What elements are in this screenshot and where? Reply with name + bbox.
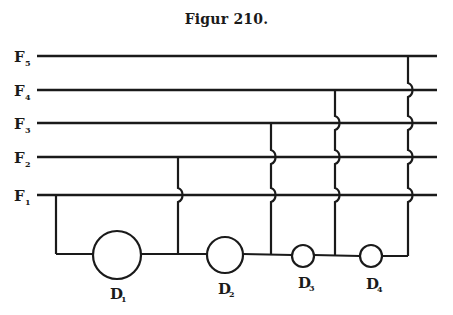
connection-f3 xyxy=(271,123,276,254)
feeder-lines xyxy=(37,56,437,195)
feeder-label-f2: F xyxy=(14,149,25,167)
dynamo-sub-d3: 3 xyxy=(309,283,315,293)
feeder-labels: F 5 F 4 F 3 F 2 F 1 xyxy=(14,48,31,207)
dynamo-d2-icon xyxy=(207,237,243,273)
connection-f4 xyxy=(335,90,340,255)
dynamo-d4-icon xyxy=(360,245,382,267)
feeder-label-f3: F xyxy=(14,115,25,133)
dynamo-labels: D 1 D 2 D 3 D 4 xyxy=(110,274,383,304)
wiring-diagram: F 5 F 4 F 3 F 2 F 1 D 1 D 2 D xyxy=(0,0,453,315)
connection-f2 xyxy=(178,157,183,254)
feeder-sub-f2: 2 xyxy=(25,159,31,169)
feeder-sub-f3: 3 xyxy=(25,125,31,135)
feeder-label-f1: F xyxy=(14,187,25,205)
feeder-sub-f1: 1 xyxy=(25,197,31,207)
dynamo-d3-icon xyxy=(292,245,314,267)
dynamo-sub-d1: 1 xyxy=(121,294,127,304)
dynamo-sub-d2: 2 xyxy=(229,289,235,299)
feeder-label-f4: F xyxy=(14,82,25,100)
feeder-label-f5: F xyxy=(14,48,25,66)
dynamo-d1-icon xyxy=(93,231,141,279)
feeder-sub-f4: 4 xyxy=(25,92,31,102)
feeder-sub-f5: 5 xyxy=(25,58,31,68)
dynamo-sub-d4: 4 xyxy=(377,284,383,294)
